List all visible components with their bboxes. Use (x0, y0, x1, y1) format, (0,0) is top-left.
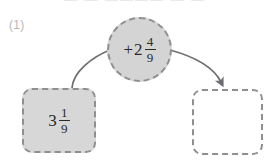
connector-operator-to-output (170, 50, 221, 82)
input-denominator: 9 (59, 121, 70, 135)
operator-expression: + 2 4 9 (123, 35, 155, 65)
input-whole-number: 3 (48, 112, 58, 129)
operator-whole-number: 2 (134, 41, 144, 58)
operator-denominator: 9 (145, 50, 156, 64)
input-numerator: 1 (59, 106, 70, 120)
input-fraction: 1 9 (59, 106, 70, 136)
operator-fraction: 4 9 (145, 35, 156, 65)
operator-numerator: 4 (145, 35, 156, 49)
input-value-box[interactable]: 3 1 9 (22, 88, 96, 153)
connector-input-to-operator (72, 50, 110, 88)
input-mixed-number: 3 1 9 (48, 106, 70, 136)
worksheet-problem-diagram: — — ———— — — (1) 3 1 9 + 2 4 9 (0, 0, 270, 164)
operator-sign: + (123, 41, 134, 58)
operator-circle[interactable]: + 2 4 9 (107, 17, 172, 82)
answer-box[interactable] (192, 89, 263, 155)
